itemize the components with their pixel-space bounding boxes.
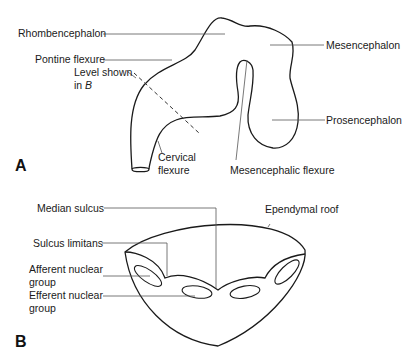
label-efferent-line1: Efferent nuclear xyxy=(29,289,103,302)
figure-canvas: Rhombencephalon Pontine flexure Level sh… xyxy=(0,0,415,360)
label-ependymal-roof: Ependymal roof xyxy=(265,203,339,216)
panel-letter-a: A xyxy=(15,157,27,175)
label-pontine-flexure: Pontine flexure xyxy=(35,53,105,66)
label-level-shown-prefix: in xyxy=(74,79,85,91)
label-cervical-line2: flexure xyxy=(158,164,190,177)
label-sulcus-limitans: Sulcus limitans xyxy=(33,237,103,250)
label-level-shown-line2: in B xyxy=(74,79,92,92)
label-level-shown-ref: B xyxy=(85,79,92,91)
label-mesencephalic-flexure: Mesencephalic flexure xyxy=(230,164,334,177)
label-cervical-line1: Cervical xyxy=(158,151,196,164)
nuclear-groups xyxy=(131,256,302,300)
label-mesencephalon: Mesencephalon xyxy=(326,39,400,52)
label-rhombencephalon: Rhombencephalon xyxy=(18,27,106,40)
panel-letter-b: B xyxy=(15,333,27,351)
label-prosencephalon: Prosencephalon xyxy=(326,114,402,127)
leader-lines-a xyxy=(103,34,325,160)
label-afferent-line2: group xyxy=(29,276,56,289)
section-level-line xyxy=(134,73,199,133)
label-afferent-line1: Afferent nuclear xyxy=(29,263,103,276)
label-level-shown-line1: Level shown xyxy=(74,66,132,79)
brain-tube-outline xyxy=(131,18,299,172)
label-efferent-line2: group xyxy=(29,302,56,315)
label-median-sulcus: Median sulcus xyxy=(37,202,104,215)
